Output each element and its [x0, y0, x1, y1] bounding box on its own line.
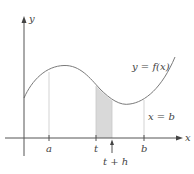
tick-label-t: t	[94, 143, 99, 154]
y-axis-arrow-icon	[22, 16, 27, 23]
y-axis-label: y	[28, 13, 35, 24]
pointer-arrow-icon	[110, 140, 114, 146]
pointer-label: t + h	[103, 156, 128, 167]
boundary-label: x = b	[148, 111, 175, 122]
shaded-region	[96, 86, 112, 138]
x-axis-arrow-icon	[176, 136, 183, 141]
tick-label-a: a	[46, 143, 52, 154]
diagram-canvas: y x y = f(x) x = b a t b t + h	[0, 0, 194, 174]
tick-label-b: b	[141, 143, 147, 154]
x-axis-label: x	[185, 132, 191, 143]
curve-label: y = f(x)	[131, 61, 170, 72]
